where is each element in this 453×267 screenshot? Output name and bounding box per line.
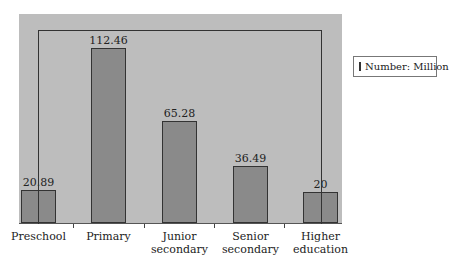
x-axis-category-label: Juniorsecondary xyxy=(145,230,215,256)
x-axis-category-label: Seniorsecondary xyxy=(216,230,286,256)
x-axis-category-label: Highereducation xyxy=(286,230,356,256)
x-axis-tick xyxy=(214,224,215,228)
legend: Number: Million xyxy=(353,56,437,77)
x-axis-category-label: Preschool xyxy=(4,230,74,243)
x-axis-category-label: Primary xyxy=(74,230,144,243)
legend-swatch-icon xyxy=(359,62,361,71)
x-axis-tick xyxy=(284,224,285,228)
x-axis-tick xyxy=(144,224,145,228)
bracket-line xyxy=(38,30,322,224)
legend-label: Number: Million xyxy=(365,61,449,72)
x-axis-tick xyxy=(73,224,74,228)
